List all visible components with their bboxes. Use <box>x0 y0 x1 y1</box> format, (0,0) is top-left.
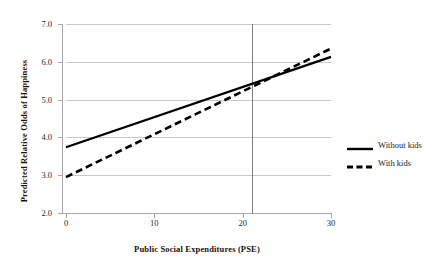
y-axis-line <box>62 24 63 214</box>
chart-legend: Without kidsWith kids <box>347 136 435 172</box>
legend-item: Without kids <box>347 136 435 154</box>
legend-swatch-dashed-icon <box>347 158 373 168</box>
x-axis-title-text: Public Social Expenditures (PSE) <box>134 244 260 254</box>
y-axis-title: Predicted Relative Odds of Happiness <box>12 0 36 262</box>
x-tick-label: 30 <box>321 218 341 229</box>
y-tick-label: 2.0 <box>30 208 52 218</box>
legend-item: With kids <box>347 154 435 172</box>
legend-label: With kids <box>378 158 411 168</box>
y-tick-label: 6.0 <box>30 57 52 67</box>
legend-swatch-solid-icon <box>347 140 373 150</box>
series-line <box>66 49 331 178</box>
y-tick-label: 3.0 <box>30 170 52 180</box>
legend-label: Without kids <box>378 140 422 150</box>
y-axis-title-text: Predicted Relative Odds of Happiness <box>19 60 29 203</box>
x-axis-line <box>62 213 331 214</box>
x-tick-label: 10 <box>144 218 164 229</box>
chart-figure: Predicted Relative Odds of Happiness 2.0… <box>0 0 438 262</box>
y-tick-label: 7.0 <box>30 19 52 29</box>
y-tick-label: 5.0 <box>30 95 52 105</box>
series-line <box>66 57 331 147</box>
plot-area <box>66 24 331 213</box>
x-tick-label: 20 <box>233 218 253 229</box>
x-axis-title: Public Social Expenditures (PSE) <box>62 238 332 256</box>
series-lines <box>66 24 331 213</box>
y-tick-label: 4.0 <box>30 132 52 142</box>
x-tick-label: 0 <box>56 218 76 229</box>
